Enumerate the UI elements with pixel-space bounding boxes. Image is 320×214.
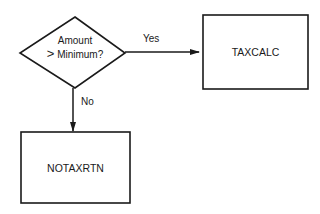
decision-label: Amount > Minimum?	[35, 34, 115, 61]
decision-line2: > Minimum?	[35, 47, 115, 61]
notaxrtn-label: NOTAXRTN	[21, 132, 130, 203]
taxcalc-label: TAXCALC	[203, 15, 308, 89]
decision-line2-text: Minimum?	[57, 49, 103, 60]
yes-label: Yes	[143, 33, 159, 45]
no-label: No	[81, 96, 94, 108]
greater-than-symbol: >	[47, 46, 55, 61]
